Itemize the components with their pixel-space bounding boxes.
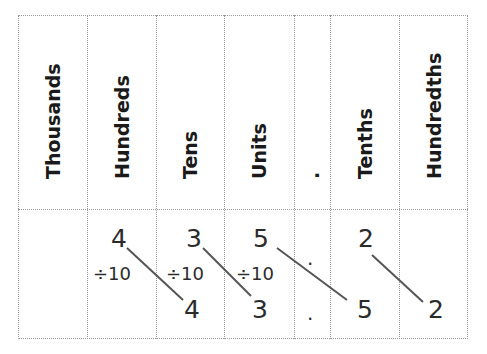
divide-by-ten-label: ÷10 (166, 265, 204, 283)
decimal-point-original: . (307, 248, 313, 268)
divide-by-ten-label: ÷10 (93, 265, 131, 283)
digit-tens-original: 3 (186, 226, 202, 251)
digit-tens-result: 4 (184, 297, 200, 322)
divide-by-ten-label: ÷10 (236, 265, 274, 283)
digit-units-result: 3 (252, 297, 268, 322)
digit-tenths-result: 5 (357, 297, 373, 322)
shift-lines (0, 0, 487, 354)
digit-units-original: 5 (253, 226, 269, 251)
digit-hundreds-original: 4 (111, 226, 127, 251)
shift-line-tenths (372, 255, 423, 302)
decimal-point-result: . (307, 303, 313, 323)
digit-hundredths-result: 2 (428, 297, 444, 322)
digit-tenths-original: 2 (358, 226, 374, 251)
